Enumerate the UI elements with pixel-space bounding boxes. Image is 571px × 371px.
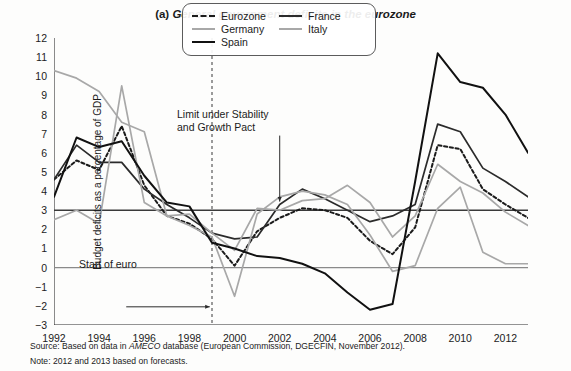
y-tick-label: 5: [41, 166, 47, 178]
y-tick-label: −3: [35, 319, 47, 331]
annotation-arrow-euro-head: [205, 305, 210, 309]
series-line-italy: [54, 71, 528, 251]
legend-swatch-spain: [192, 41, 215, 43]
figure-label: (a): [155, 8, 169, 20]
x-tick-label: 2012: [494, 332, 517, 344]
legend-swatch-france: [279, 15, 302, 17]
y-tick-label: 0: [41, 262, 47, 274]
y-tick-label: 9: [41, 89, 47, 101]
y-tick-label: 3: [41, 204, 47, 216]
line-chart-svg: [54, 38, 528, 325]
y-tick-label: 1: [41, 242, 47, 254]
y-axis-label: Budget deficits as a percentage of GDP: [92, 94, 103, 270]
y-tick-label: 6: [41, 147, 47, 159]
source-prefix: Source: Based on data in: [30, 341, 129, 351]
annotation-sgp-limit: Limit under Stability and Growth Pact: [177, 108, 269, 134]
legend-swatch-eurozone: [192, 15, 215, 17]
annotation-start-of-euro: Start of euro: [79, 258, 137, 271]
note-caption: Note: 2012 and 2013 based on forecasts.: [30, 356, 188, 366]
legend-item-eurozone[interactable]: Eurozone: [192, 10, 279, 22]
legend-swatch-italy: [279, 28, 302, 30]
legend-swatch-germany: [192, 28, 215, 30]
y-tick-label: 10: [35, 70, 47, 82]
y-tick-label: −2: [35, 300, 47, 312]
legend-row: Eurozone France: [192, 10, 366, 22]
x-tick-label: 2008: [403, 332, 426, 344]
source-suffix: database (European Commission, DGECFIN, …: [160, 341, 405, 351]
legend-row: Germany Italy: [192, 23, 366, 35]
legend-row: Spain: [192, 36, 366, 48]
series-line-france: [54, 124, 528, 239]
annotation-arrow-sgp-head: [278, 197, 282, 202]
plot-area: Budget deficits as a percentage of GDP 1…: [54, 38, 528, 325]
y-tick-label: 2: [41, 223, 47, 235]
source-caption: Source: Based on data in AMECO database …: [30, 341, 405, 351]
source-database-name: AMECO: [129, 341, 161, 351]
legend-label-germany: Germany: [221, 23, 264, 35]
legend-item-italy[interactable]: Italy: [279, 23, 366, 35]
chart-legend: Eurozone France Germany Italy Spain: [182, 3, 376, 56]
legend-label-spain: Spain: [221, 36, 248, 48]
legend-label-eurozone: Eurozone: [221, 10, 266, 22]
legend-label-italy: Italy: [308, 23, 327, 35]
y-tick-label: 11: [36, 51, 47, 63]
x-tick-label: 2010: [449, 332, 472, 344]
y-tick-label: −1: [35, 281, 47, 293]
legend-item-spain[interactable]: Spain: [192, 36, 366, 48]
series-line-spain: [54, 53, 528, 309]
legend-item-france[interactable]: France: [279, 10, 366, 22]
y-tick-label: 7: [41, 128, 47, 140]
y-tick-label: 12: [35, 32, 47, 44]
y-tick-label: 8: [41, 109, 47, 121]
figure-panel: (a) General government deficits in the e…: [0, 0, 571, 371]
legend-label-france: France: [308, 10, 341, 22]
y-tick-label: 4: [41, 185, 47, 197]
legend-item-germany[interactable]: Germany: [192, 23, 279, 35]
